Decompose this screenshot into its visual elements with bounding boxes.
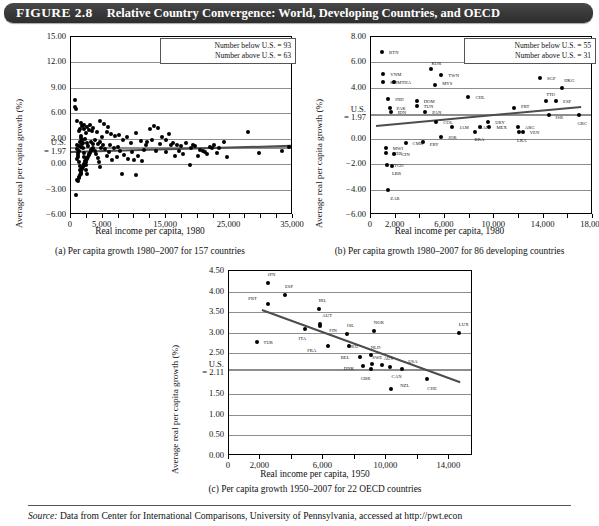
country-label-mys: MYS (442, 80, 452, 85)
y-axis-tick-label: −3.00 (46, 184, 66, 194)
data-point (73, 98, 77, 102)
data-point-ita (303, 327, 307, 331)
x-axis-tick-mark (181, 214, 182, 218)
country-label-esp: ESP (563, 99, 571, 104)
gridline (229, 394, 471, 395)
country-label-chl: CHL (475, 95, 485, 100)
country-label-isr: ISR (556, 115, 563, 120)
y-axis-tick-label: 3.00 (51, 133, 66, 143)
data-point-mys (433, 83, 437, 87)
country-label-aus: AUS (384, 355, 394, 360)
country-label-tur: TUR (264, 339, 274, 344)
panel-c-oecd: Average real per capita growth (%) JPNES… (150, 264, 480, 494)
data-point (156, 126, 160, 130)
gridline (371, 88, 591, 89)
data-point-vnm (381, 72, 385, 76)
data-point-jam (450, 125, 454, 129)
data-point (79, 172, 83, 176)
data-point-dnk (361, 364, 365, 368)
data-point-usa (400, 367, 404, 371)
data-point (107, 150, 111, 154)
data-point (85, 172, 89, 176)
data-point (110, 158, 114, 162)
data-point (158, 142, 162, 146)
x-axis-tick-mark (370, 214, 371, 218)
data-point (91, 142, 95, 146)
panel-c-plot: JPNESPPRTIRLAUTFINITAISLNORLUXTURFRABELN… (228, 270, 472, 455)
country-label-prt: PRT (248, 295, 256, 300)
panel-c-caption: (c) Per capita growth 1950–2007 for 22 O… (150, 484, 480, 494)
y-axis-tick-label: 4.50 (209, 265, 224, 275)
country-label-tun: TUN (424, 104, 434, 109)
x-axis-tick-mark (543, 214, 544, 218)
x-axis-tick-mark (133, 214, 134, 218)
country-label-bel: BEL (341, 354, 350, 359)
panel-a-legend-below: Number below U.S. = 93 (165, 41, 291, 51)
y-axis-tick-label: 1.00 (209, 409, 224, 419)
data-point (108, 143, 112, 147)
data-point-tun (415, 104, 419, 108)
data-point (115, 155, 119, 159)
panel-c-xlabel: Real income per capita, 1950 (150, 469, 480, 479)
data-point-chl (466, 95, 470, 99)
panel-a-xlabel: Real income per capita, 1980 (0, 226, 300, 236)
data-point (121, 138, 125, 142)
data-point (105, 154, 109, 158)
data-point-ind (386, 97, 390, 101)
x-axis-tick-mark (292, 214, 293, 218)
gridline (229, 353, 471, 354)
data-point (217, 146, 221, 150)
data-point (126, 157, 130, 161)
source-text: Data from Center for International Compa… (57, 510, 462, 521)
country-label-tto: TTO (546, 91, 555, 96)
data-point-lka (517, 130, 521, 134)
data-point-tha (392, 80, 396, 84)
country-label-usa: USA (408, 359, 418, 364)
gridline (71, 190, 291, 191)
x-axis-tick-mark (395, 214, 396, 218)
country-label-nzl: NZL (400, 382, 409, 387)
data-point (164, 138, 168, 142)
gridline (71, 139, 291, 140)
x-axis-tick-mark (229, 214, 230, 218)
gridline (229, 312, 471, 313)
x-axis-tick-mark (385, 455, 386, 459)
country-label-lux: LUX (459, 321, 469, 326)
y-axis-tick-label: −6.00 (46, 209, 66, 219)
data-point (167, 132, 171, 136)
country-label-sgp: SGP (547, 76, 556, 81)
data-point-tgo (385, 163, 389, 167)
data-point-lbr (390, 164, 394, 168)
data-point-khm (381, 80, 385, 84)
data-point (86, 144, 90, 148)
country-label-ind: IND (395, 96, 403, 101)
data-point-lux (457, 331, 461, 335)
source-note: Source: Data from Center for Internation… (28, 510, 462, 521)
country-label-jam: JAM (459, 124, 469, 129)
x-axis-tick-mark (165, 214, 166, 218)
data-point-aus (380, 363, 384, 367)
data-point (136, 154, 140, 158)
country-label-swe: SWE (372, 354, 382, 359)
country-label-mex: MEX (496, 125, 507, 130)
data-point (79, 145, 83, 149)
y-axis-tick-label: U.S.= 2.11 (202, 360, 224, 376)
x-axis-tick-mark (354, 455, 355, 459)
data-point (106, 125, 110, 129)
country-label-isl: ISL (347, 323, 354, 328)
panel-b-xlabel: Real income per capita, 1980 (300, 226, 599, 236)
x-axis-tick-mark (444, 214, 445, 218)
data-point (74, 107, 78, 111)
country-label-arg: ARG (525, 124, 535, 129)
data-point-grc (577, 113, 581, 117)
data-point-tto (544, 99, 548, 103)
data-point (116, 145, 120, 149)
country-label-ury: URY (495, 119, 505, 124)
data-point-col (434, 120, 438, 124)
data-point-hkg (560, 86, 564, 90)
data-point (205, 152, 209, 156)
gridline (229, 292, 471, 293)
y-axis-tick-label: 12.00 (47, 56, 66, 66)
data-point-arg (516, 125, 520, 129)
data-point-sgp (538, 76, 542, 80)
